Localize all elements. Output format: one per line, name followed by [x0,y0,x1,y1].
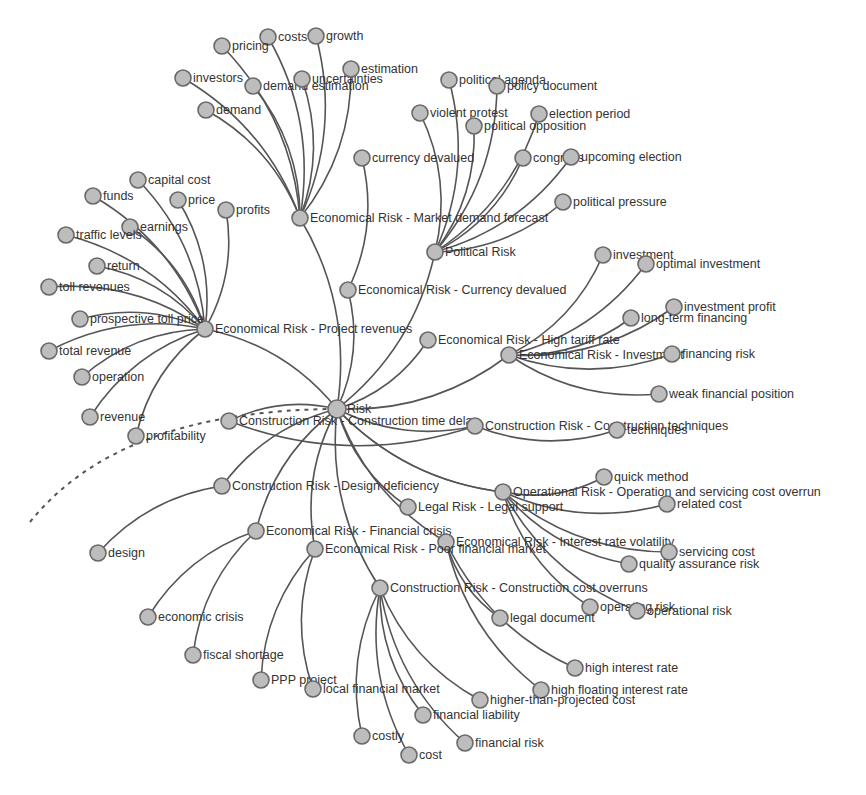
leaf-node[interactable]: political pressure [555,194,667,210]
node-circle-icon[interactable] [74,369,90,385]
node-circle-icon[interactable] [85,188,101,204]
leaf-node[interactable]: high interest rate [567,660,678,676]
node-circle-icon[interactable] [305,681,321,697]
category-node[interactable]: Economical Risk - Project revenues [197,321,412,337]
leaf-node[interactable]: toll revenues [41,279,130,295]
node-circle-icon[interactable] [372,580,388,596]
node-circle-icon[interactable] [412,105,428,121]
node-circle-icon[interactable] [415,707,431,723]
category-node[interactable]: Economical Risk - Financial crisis [248,523,451,539]
leaf-node[interactable]: long-term financing [623,310,747,326]
leaf-node[interactable]: upcoming election [563,149,682,165]
category-node[interactable]: Economical Risk - Poor financial market [307,541,546,557]
node-circle-icon[interactable] [457,735,473,751]
node-circle-icon[interactable] [515,150,531,166]
leaf-node[interactable]: profits [218,202,270,218]
node-circle-icon[interactable] [41,279,57,295]
category-node[interactable]: Construction Risk - Design deficiency [214,478,440,494]
leaf-node[interactable]: growth [308,28,364,44]
node-circle-icon[interactable] [492,610,508,626]
node-circle-icon[interactable] [292,210,308,226]
category-node[interactable]: Economical Risk - High tariff rate [420,332,620,348]
category-node[interactable]: Construction Risk - Construction techniq… [467,418,728,434]
node-circle-icon[interactable] [664,346,680,362]
leaf-node[interactable]: funds [85,188,134,204]
node-circle-icon[interactable] [198,102,214,118]
node-circle-icon[interactable] [248,523,264,539]
leaf-node[interactable]: higher-than-projected cost [472,692,636,708]
node-circle-icon[interactable] [294,71,310,87]
node-circle-icon[interactable] [214,38,230,54]
node-circle-icon[interactable] [466,118,482,134]
node-circle-icon[interactable] [400,499,416,515]
node-circle-icon[interactable] [467,418,483,434]
leaf-node[interactable]: fiscal shortage [185,647,284,663]
node-circle-icon[interactable] [89,258,105,274]
category-node[interactable]: Political Risk [427,244,517,260]
leaf-node[interactable]: capital cost [130,172,211,188]
node-circle-icon[interactable] [609,422,625,438]
leaf-node[interactable]: financing risk [664,346,756,362]
node-circle-icon[interactable] [595,247,611,263]
leaf-node[interactable]: estimation [343,61,418,77]
node-circle-icon[interactable] [90,545,106,561]
node-circle-icon[interactable] [58,227,74,243]
node-circle-icon[interactable] [245,78,261,94]
node-circle-icon[interactable] [567,660,583,676]
leaf-node[interactable]: quick method [596,469,688,485]
leaf-node[interactable]: pricing [214,38,269,54]
node-circle-icon[interactable] [72,311,88,327]
node-circle-icon[interactable] [563,149,579,165]
leaf-node[interactable]: price [170,192,215,208]
leaf-node[interactable]: weak financial position [651,386,794,402]
leaf-node[interactable]: operation [74,369,144,385]
leaf-node[interactable]: traffic levels [58,227,142,243]
leaf-node[interactable]: return [89,258,140,274]
node-circle-icon[interactable] [307,541,323,557]
node-circle-icon[interactable] [343,61,359,77]
node-circle-icon[interactable] [472,692,488,708]
node-circle-icon[interactable] [489,78,505,94]
node-circle-icon[interactable] [41,343,57,359]
leaf-node[interactable]: financial liability [415,707,521,723]
leaf-node[interactable]: political opposition [466,118,586,134]
node-circle-icon[interactable] [308,28,324,44]
node-circle-icon[interactable] [221,413,237,429]
leaf-node[interactable]: financial risk [457,735,545,751]
leaf-node[interactable]: prospective toll price [72,311,204,327]
leaf-node[interactable]: revenue [82,409,145,425]
category-node[interactable]: Construction Risk - Construction cost ov… [372,580,648,596]
leaf-node[interactable]: related cost [659,496,742,512]
leaf-node[interactable]: costly [354,728,405,744]
node-circle-icon[interactable] [401,747,417,763]
node-circle-icon[interactable] [420,332,436,348]
node-circle-icon[interactable] [185,647,201,663]
node-circle-icon[interactable] [214,478,230,494]
leaf-node[interactable]: cost [401,747,442,763]
node-circle-icon[interactable] [441,72,457,88]
category-node[interactable]: Construction Risk - Construction time de… [221,413,479,429]
node-circle-icon[interactable] [128,428,144,444]
node-circle-icon[interactable] [253,672,269,688]
category-node[interactable]: Operational Risk - Operation and servici… [495,484,821,500]
node-circle-icon[interactable] [170,192,186,208]
leaf-node[interactable]: techniques [609,422,687,438]
node-circle-icon[interactable] [218,202,234,218]
leaf-node[interactable]: economic crisis [140,609,243,625]
node-circle-icon[interactable] [596,469,612,485]
node-circle-icon[interactable] [495,484,511,500]
category-node[interactable]: Economical Risk - Market demand forecast [292,210,549,226]
node-circle-icon[interactable] [501,347,517,363]
node-circle-icon[interactable] [629,603,645,619]
category-node[interactable]: Economical Risk - Investment [501,347,684,363]
node-circle-icon[interactable] [659,496,675,512]
node-circle-icon[interactable] [354,728,370,744]
node-circle-icon[interactable] [82,409,98,425]
node-circle-icon[interactable] [140,609,156,625]
node-circle-icon[interactable] [555,194,571,210]
leaf-node[interactable]: investors [175,70,243,86]
node-circle-icon[interactable] [130,172,146,188]
node-circle-icon[interactable] [621,556,637,572]
node-circle-icon[interactable] [638,256,654,272]
leaf-node[interactable]: profitability [128,428,206,444]
